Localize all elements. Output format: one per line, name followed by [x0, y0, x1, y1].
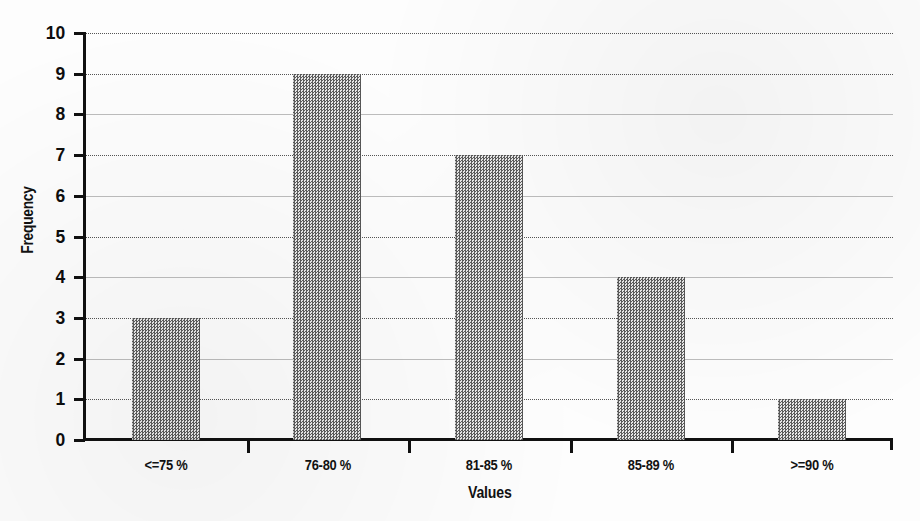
y-axis-title-text: Frequency	[19, 186, 37, 253]
histogram-chart: Frequency 012345678910 <=75 %76-80 %81-8…	[0, 0, 920, 521]
y-axis-tick-label: 7	[36, 145, 66, 164]
x-axis-tick-label-text: 85-89 %	[627, 456, 673, 473]
y-axis-tick-label: 3	[36, 308, 66, 327]
y-axis-tick-label-text: 1	[56, 389, 66, 408]
x-axis-tick	[731, 441, 734, 453]
x-axis-title: Values	[85, 484, 895, 502]
y-axis-tick-label: 6	[36, 186, 66, 205]
x-axis-tick	[247, 441, 250, 453]
y-axis-tick-label-text: 3	[56, 308, 66, 327]
y-axis-tick-label-text: 9	[56, 64, 66, 83]
x-axis-tick-label: 76-80 %	[247, 456, 409, 473]
bar	[617, 277, 685, 440]
y-axis-tick-label-text: 5	[56, 227, 66, 246]
x-axis-tick-label: >=90 %	[731, 456, 893, 473]
x-axis-tick	[408, 441, 411, 453]
y-axis-tick-label-text: 10	[46, 23, 65, 42]
y-axis-tick-label: 8	[36, 104, 66, 123]
x-axis-tick-label-text: >=90 %	[791, 456, 834, 473]
x-axis-tick-label: 81-85 %	[408, 456, 570, 473]
bar	[132, 318, 200, 440]
bars-layer	[85, 33, 893, 440]
y-axis-tick-label-text: 7	[56, 145, 66, 164]
y-axis-tick-label-text: 2	[56, 349, 66, 368]
x-axis-title-text: Values	[468, 484, 512, 502]
y-axis-tick-label: 2	[36, 349, 66, 368]
y-axis-tick-label-text: 8	[56, 104, 66, 123]
y-axis-tick-label: 9	[36, 64, 66, 83]
bar	[455, 155, 523, 440]
y-axis-tick-label-text: 4	[56, 267, 66, 286]
x-axis-tick-label-text: 76-80 %	[304, 456, 350, 473]
y-axis-tick-label: 1	[36, 389, 66, 408]
y-axis-tick-label-text: 6	[56, 186, 66, 205]
y-axis-tick-label: 10	[36, 23, 66, 42]
bar	[778, 399, 846, 440]
x-axis-tick-label-text: <=75 %	[144, 456, 187, 473]
x-axis-tick-label-text: 81-85 %	[466, 456, 512, 473]
y-axis-tick-label: 0	[36, 430, 66, 449]
x-axis-tick-label: 85-89 %	[570, 456, 732, 473]
y-axis-tick-label-text: 0	[56, 430, 66, 449]
y-axis-tick-label: 5	[36, 227, 66, 246]
bar	[293, 74, 361, 440]
x-axis-tick-label: <=75 %	[85, 456, 247, 473]
y-axis-tick-label: 4	[36, 267, 66, 286]
x-axis-tick	[570, 441, 573, 453]
